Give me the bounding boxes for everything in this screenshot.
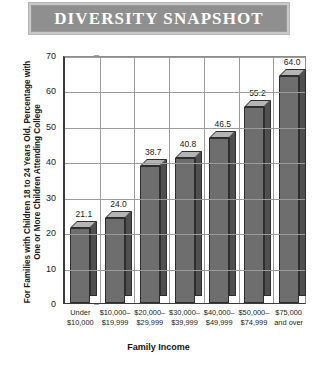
- page-title: DIVERSITY SNAPSHOT: [54, 9, 264, 29]
- y-axis-tick-label: 20: [46, 228, 56, 238]
- bar-value-label: 64.0: [275, 57, 310, 67]
- bar: [279, 69, 299, 303]
- gridline-horizontal: [65, 92, 305, 93]
- bar: [244, 100, 264, 303]
- y-axis-tick-label: 60: [46, 86, 56, 96]
- bar-side-face: [125, 211, 132, 296]
- x-axis-title: Family Income: [0, 342, 317, 352]
- gridline-horizontal: [65, 57, 305, 58]
- y-axis-tick-label: 70: [46, 51, 56, 61]
- bar-front-face: [105, 218, 125, 303]
- bar: [140, 159, 160, 303]
- bar-side-face: [299, 69, 306, 296]
- y-axis-tick-label: 0: [51, 299, 56, 309]
- gridline-horizontal: [65, 163, 305, 164]
- gridline-vertical: [204, 57, 205, 303]
- bar-side-face: [90, 221, 97, 296]
- gridline-horizontal: [65, 199, 305, 200]
- gridline-vertical: [100, 57, 101, 303]
- bar: [209, 131, 229, 303]
- x-axis-tick-labels: Under$10,000$10,000–$19,999$20,000–$29,9…: [63, 308, 306, 332]
- bar-chart: For Families with Children 18 to 24 Year…: [0, 46, 317, 389]
- title-banner: DIVERSITY SNAPSHOT: [28, 2, 290, 35]
- gridline-vertical: [169, 57, 170, 303]
- gridline-vertical: [134, 57, 135, 303]
- plot-area: 21.124.038.740.846.555.264.0: [63, 56, 306, 304]
- bar-series: 21.124.038.740.846.555.264.0: [65, 57, 305, 303]
- bar: [175, 151, 195, 303]
- bar-front-face: [70, 228, 90, 303]
- bar-side-face: [160, 159, 167, 296]
- bar-side-face: [229, 131, 236, 296]
- x-axis-tick-label-line: $75,000: [265, 308, 312, 318]
- title-banner-inner: DIVERSITY SNAPSHOT: [31, 5, 287, 32]
- bar-value-label: 55.2: [240, 88, 275, 98]
- gridline-vertical: [273, 57, 274, 303]
- bar-side-face: [195, 151, 202, 296]
- bar-value-label: 40.8: [171, 139, 206, 149]
- gridline-horizontal: [65, 234, 305, 235]
- gridline-vertical: [239, 57, 240, 303]
- bar-value-label: 24.0: [101, 199, 136, 209]
- y-axis-tick-label: 30: [46, 193, 56, 203]
- x-axis-tick-label-line: and over: [265, 318, 312, 328]
- y-axis-tick-label: 50: [46, 122, 56, 132]
- y-axis-tick-label: 40: [46, 157, 56, 167]
- bar: [105, 211, 125, 303]
- diversity-snapshot-figure: DIVERSITY SNAPSHOT For Families with Chi…: [0, 0, 317, 389]
- y-axis-tick-label: 10: [46, 264, 56, 274]
- bar-front-face: [175, 158, 195, 303]
- bar-value-label: 21.1: [66, 209, 101, 219]
- bar-value-label: 38.7: [136, 147, 171, 157]
- y-axis-tick-labels: 010203040506070: [36, 56, 56, 304]
- gridline-horizontal: [65, 128, 305, 129]
- gridline-horizontal: [65, 270, 305, 271]
- bar-front-face: [244, 107, 264, 303]
- x-axis-tick-label: $75,000and over: [265, 308, 312, 327]
